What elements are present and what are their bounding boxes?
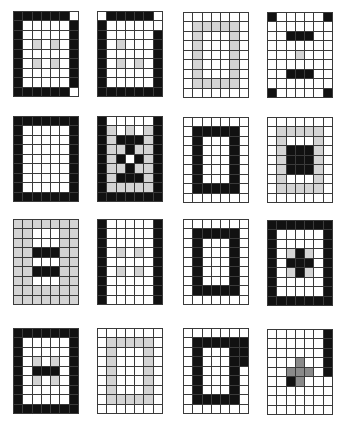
pattern-grid-13 <box>13 328 79 414</box>
grid-cell <box>98 220 106 228</box>
grid-cell <box>144 220 152 228</box>
grid-cell <box>193 175 201 183</box>
grid-cell <box>117 277 125 285</box>
grid-cell <box>268 13 276 21</box>
grid-cell <box>212 137 220 145</box>
grid-cell <box>135 12 143 20</box>
grid-cell <box>230 32 238 40</box>
grid-cell <box>98 21 106 29</box>
grid-cell <box>154 395 162 403</box>
grid-cell <box>305 221 313 229</box>
grid-cell <box>305 165 313 173</box>
grid-cell <box>107 220 115 228</box>
grid-cell <box>42 136 50 144</box>
grid-cell <box>296 349 304 357</box>
grid-cell <box>42 59 50 67</box>
grid-cell <box>42 164 50 172</box>
grid-cell <box>212 338 220 346</box>
grid-cell <box>107 267 115 275</box>
grid-cell <box>184 60 192 68</box>
grid-cell <box>287 127 295 135</box>
grid-cell <box>287 240 295 248</box>
grid-cell <box>268 396 276 404</box>
grid-cell <box>193 357 201 365</box>
grid-cell <box>33 286 41 294</box>
grid-cell <box>240 367 248 375</box>
grid-cell <box>324 70 332 78</box>
grid-cell <box>51 348 59 356</box>
grid-cell <box>287 89 295 97</box>
grid-cell <box>107 40 115 48</box>
grid-cell <box>277 297 285 305</box>
grid-cell <box>144 31 152 39</box>
grid-cell <box>193 13 201 21</box>
grid-cell <box>117 357 125 365</box>
pattern-grid-14 <box>97 328 163 414</box>
grid-cell <box>305 127 313 135</box>
grid-cell <box>203 286 211 294</box>
grid-cell <box>33 338 41 346</box>
grid-cell <box>144 78 152 86</box>
grid-cell <box>240 89 248 97</box>
grid-cell <box>193 376 201 384</box>
grid-cell <box>14 59 22 67</box>
grid-cell <box>240 175 248 183</box>
grid-cell <box>324 194 332 202</box>
grid-cell <box>154 40 162 48</box>
grid-cell <box>33 69 41 77</box>
grid-cell <box>240 70 248 78</box>
grid-cell <box>23 50 31 58</box>
grid-cell <box>42 258 50 266</box>
grid-cell <box>240 395 248 403</box>
grid-cell <box>305 60 313 68</box>
grid-cell <box>193 60 201 68</box>
grid-cell <box>212 258 220 266</box>
grid-cell <box>230 277 238 285</box>
pattern-grid-1 <box>13 11 79 97</box>
grid-cell <box>144 348 152 356</box>
grid-cell <box>51 357 59 365</box>
pattern-grid-4 <box>267 12 333 98</box>
grid-cell <box>287 287 295 295</box>
grid-cell <box>98 277 106 285</box>
grid-cell <box>60 239 68 247</box>
grid-cell <box>268 89 276 97</box>
grid-cell <box>240 258 248 266</box>
grid-cell <box>98 31 106 39</box>
grid-cell <box>144 258 152 266</box>
grid-cell <box>135 164 143 172</box>
grid-cell <box>51 12 59 20</box>
grid-cell <box>314 51 322 59</box>
grid-cell <box>117 267 125 275</box>
grid-cell <box>268 387 276 395</box>
grid-cell <box>221 367 229 375</box>
grid-cell <box>212 22 220 30</box>
grid-cell <box>193 248 201 256</box>
grid-cell <box>98 405 106 413</box>
grid-cell <box>296 127 304 135</box>
grid-cell <box>314 70 322 78</box>
grid-cell <box>135 277 143 285</box>
grid-cell <box>296 396 304 404</box>
grid-cell <box>221 258 229 266</box>
grid-cell <box>305 41 313 49</box>
grid-cell <box>14 117 22 125</box>
grid-cell <box>305 89 313 97</box>
grid-cell <box>296 268 304 276</box>
grid-cell <box>107 193 115 201</box>
grid-cell <box>287 32 295 40</box>
grid-cell <box>305 339 313 347</box>
grid-cell <box>98 88 106 96</box>
grid-cell <box>107 296 115 304</box>
grid-cell <box>212 184 220 192</box>
grid-cell <box>144 69 152 77</box>
grid-cell <box>144 117 152 125</box>
grid-cell <box>117 229 125 237</box>
grid-cell <box>277 32 285 40</box>
grid-cell <box>23 229 31 237</box>
grid-cell <box>117 338 125 346</box>
grid-cell <box>230 146 238 154</box>
grid-cell <box>212 248 220 256</box>
grid-cell <box>314 41 322 49</box>
grid-cell <box>33 40 41 48</box>
